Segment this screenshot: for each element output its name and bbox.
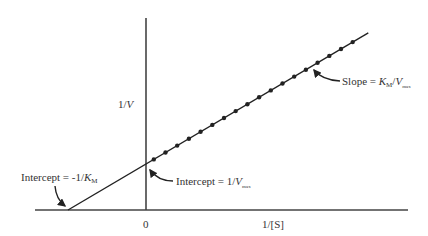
data-point (269, 88, 273, 92)
data-point (198, 130, 202, 134)
data-point (175, 143, 179, 147)
data-point (210, 123, 214, 127)
x-axis-label: 1/[S] (262, 218, 284, 230)
data-point (292, 74, 296, 78)
data-point (327, 54, 331, 58)
y-intercept-arrow (150, 170, 173, 181)
slope-arrow (314, 70, 340, 81)
y-axis-label: 1/V (118, 98, 135, 110)
data-point (351, 40, 355, 44)
lineweaver-burk-chart: 1/V 1/[S] 0 Slope = KM/Vmax Intercept = … (0, 0, 428, 236)
data-point (152, 157, 156, 161)
x-intercept-annotation: Intercept = -1/KM (21, 171, 98, 185)
data-point (315, 61, 319, 65)
data-point (222, 116, 226, 120)
data-point (163, 150, 167, 154)
data-point (234, 109, 238, 113)
y-intercept-annotation: Intercept = 1/Vmax (176, 175, 251, 189)
data-point (304, 68, 308, 72)
slope-annotation: Slope = KM/Vmax (342, 75, 411, 89)
data-point (257, 95, 261, 99)
data-point (245, 102, 249, 106)
data-point (339, 47, 343, 51)
data-point (187, 137, 191, 141)
x-intercept-arrow (55, 186, 65, 206)
data-point (280, 81, 284, 85)
x-zero-tick-label: 0 (143, 218, 149, 230)
